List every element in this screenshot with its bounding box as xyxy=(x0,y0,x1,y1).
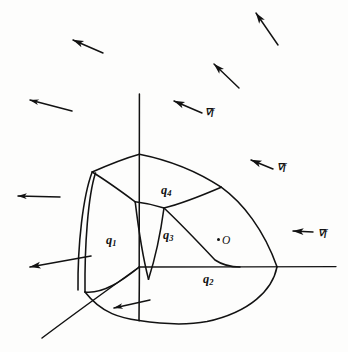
gradient-label-2: ∇f xyxy=(277,163,286,173)
gradient-arrow-bottom-face xyxy=(114,300,150,308)
figure-container: q1 q2 q3 q4 O ∇f ∇f ∇f xyxy=(0,0,348,352)
solid-edge-top-right-ridge xyxy=(139,154,221,187)
gradient-arrow-left-upper-face xyxy=(18,196,60,197)
region-label-q1: q1 xyxy=(106,234,117,248)
solid-edge-top-left-ridge xyxy=(92,154,139,172)
coordinate-axes xyxy=(42,94,336,338)
region-label-q3-subscript: 3 xyxy=(169,233,173,243)
region-label-q4-subscript: 4 xyxy=(167,188,171,198)
gradient-arrow-labelled-2 xyxy=(251,160,273,169)
gradient-arrow-labelled-1 xyxy=(174,101,202,113)
figure-drawing-canvas xyxy=(0,0,348,352)
gradient-arrow-upper-left xyxy=(73,40,103,53)
region-label-q4: q4 xyxy=(161,184,172,198)
region-label-q1-subscript: 1 xyxy=(112,238,116,248)
solid-edge-top-inner-left xyxy=(92,172,135,202)
region-label-q3: q3 xyxy=(163,229,174,243)
point-label-o: O xyxy=(222,235,230,247)
gradient-arrow-mid-left xyxy=(30,100,72,111)
solid-edge-q3-right-boundary xyxy=(149,208,165,279)
gradient-label-3: ∇f xyxy=(318,229,327,239)
point-dot-marker xyxy=(217,238,220,241)
solid-edge-interior-left-face-diagonal xyxy=(85,267,139,292)
solid-edge-bottom-left-curve xyxy=(85,292,139,321)
solid-edge-right-silhouette xyxy=(221,187,277,267)
gradient-arrow-labelled-3 xyxy=(293,231,313,232)
gradient-label-1: ∇f xyxy=(205,108,214,118)
gradient-arrow-left-lower-face xyxy=(30,256,91,267)
region-label-q2-subscript: 2 xyxy=(209,277,213,287)
gradient-arrow-top-right-up xyxy=(256,13,278,45)
solid-edge-top-inner-right xyxy=(164,187,221,208)
gradient-arrow-upper-mid-right xyxy=(214,64,239,88)
region-label-q2: q2 xyxy=(203,273,214,287)
